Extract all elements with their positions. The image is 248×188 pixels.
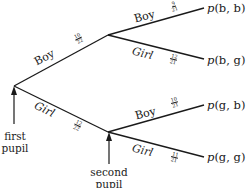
first-pupil-label: first pupil (0, 130, 30, 154)
second-pupil-label: second pupil (90, 166, 128, 188)
branch-girl-girl (108, 132, 204, 157)
outcome-gg: p(g, g) (207, 152, 245, 164)
outcome-bb: p(b, b) (207, 3, 245, 15)
branch-first-boy (14, 35, 108, 86)
branch-girl-boy (108, 105, 204, 132)
outcome-bg: p(b, g) (207, 55, 245, 67)
branch-boy-boy (108, 8, 204, 35)
outcome-gb: p(g, b) (207, 100, 245, 112)
branch-first-girl (14, 86, 108, 132)
branch-boy-girl (108, 35, 204, 59)
